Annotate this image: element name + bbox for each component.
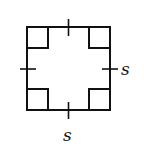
- square-outline: [27, 27, 110, 110]
- right-angle-marker-bottom-right: [89, 89, 110, 110]
- side-label-bottom: s: [63, 125, 72, 145]
- right-angle-marker-top-right: [89, 27, 110, 48]
- right-angle-marker-top-left: [27, 27, 48, 48]
- side-label-right: s: [121, 59, 130, 79]
- square-diagram: s s: [0, 0, 144, 155]
- right-angle-marker-bottom-left: [27, 89, 48, 110]
